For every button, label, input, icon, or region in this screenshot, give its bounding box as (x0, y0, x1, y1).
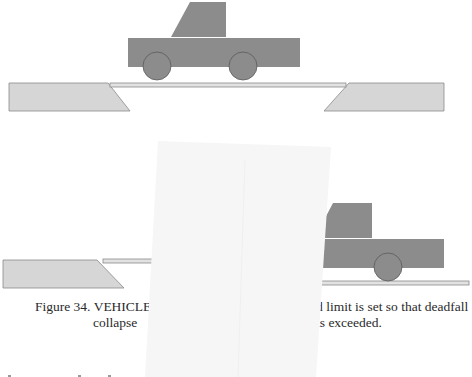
bottom-panel (3, 203, 469, 288)
truck-wheel (374, 253, 402, 281)
truck-cab (323, 203, 372, 238)
left-ramp (3, 260, 124, 288)
pit-floor (319, 281, 469, 285)
dropped-truck (320, 203, 444, 281)
deadfall-platform (110, 83, 346, 87)
top-panel (9, 2, 444, 111)
caption-line1-left: Figure 34. VEHICLE I (35, 299, 159, 315)
deadfall-platform-remnant (103, 259, 153, 263)
truck (128, 2, 300, 80)
figure-diagram (0, 0, 472, 377)
caption-line2-left: collapse (93, 315, 137, 331)
truck-rear-wheel (143, 52, 171, 80)
truck-cab (171, 2, 226, 37)
caption-line2-right: is exceeded. (316, 315, 382, 331)
truck-front-wheel (229, 52, 257, 80)
caption-line1-right: d limit is set so that deadfall (316, 299, 468, 315)
